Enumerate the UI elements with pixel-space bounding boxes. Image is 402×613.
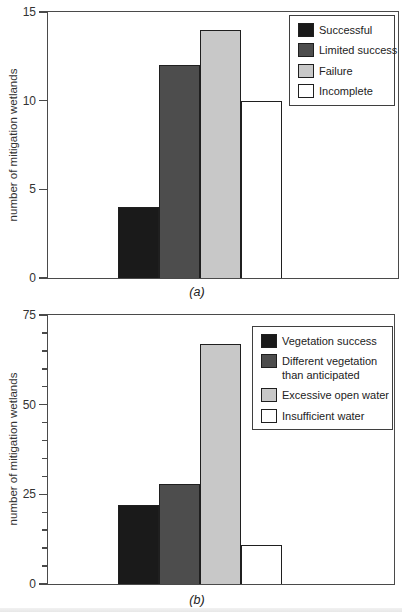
y-minor-tick: [42, 565, 47, 567]
legend-label: Vegetation success: [282, 334, 377, 348]
legend-swatch-icon: [298, 84, 314, 98]
legend-label: Different vegetation than anticipated: [282, 354, 388, 382]
cropped-caption-artifact: [0, 608, 402, 612]
y-tick-label: 0: [10, 272, 36, 284]
legend-swatch-icon: [298, 64, 314, 78]
bar-incomplete: [241, 101, 282, 278]
y-major-tick: [39, 11, 47, 13]
legend-item: Incomplete: [298, 84, 390, 98]
y-minor-tick: [42, 422, 47, 424]
y-axis-label-b: number of mitigation wetlands: [7, 373, 19, 526]
legend-label: Successful: [319, 23, 372, 37]
y-tick-label: 0: [10, 578, 36, 590]
legend-swatch-icon: [261, 409, 277, 423]
legend-item: Limited success: [298, 43, 390, 57]
legend-swatch-icon: [298, 23, 314, 37]
legend-item: Vegetation success: [261, 334, 388, 348]
legend-item: Different vegetation than anticipated: [261, 354, 388, 382]
y-major-tick: [39, 189, 47, 191]
y-minor-tick: [42, 547, 47, 549]
legend-label: Limited success: [319, 43, 397, 57]
legend-swatch-icon: [261, 354, 277, 368]
legend-swatch-icon: [261, 334, 277, 348]
y-tick-label: 75: [10, 309, 36, 321]
panel-caption-b: (b): [189, 593, 204, 607]
two-panel-bar-figure: 051015 number of mitigation wetlands Suc…: [0, 0, 402, 613]
y-major-tick: [39, 494, 47, 496]
legend-item: Failure: [298, 64, 390, 78]
y-minor-tick: [42, 332, 47, 334]
legend-item: Insufficient water: [261, 409, 388, 423]
legend-item: Successful: [298, 23, 390, 37]
y-minor-tick: [42, 350, 47, 352]
y-major-tick: [39, 277, 47, 279]
y-minor-tick: [42, 440, 47, 442]
bar-failure: [200, 30, 241, 278]
y-major-tick: [39, 314, 47, 316]
legend-label: Insufficient water: [282, 409, 364, 423]
bar-successful: [118, 207, 159, 278]
bar-excessive-open-water: [200, 344, 241, 584]
y-major-tick: [39, 404, 47, 406]
y-tick-label: 15: [10, 6, 36, 18]
legend-a: SuccessfulLimited successFailureIncomple…: [289, 15, 395, 106]
legend-item: Excessive open water: [261, 388, 388, 402]
panel-caption-a: (a): [189, 285, 204, 299]
bar-different-vegetation-than-anticipated: [159, 484, 200, 584]
y-axis-label-a: number of mitigation wetlands: [7, 69, 19, 222]
legend-swatch-icon: [261, 388, 277, 402]
legend-swatch-icon: [298, 43, 314, 57]
legend-b: Vegetation successDifferent vegetation t…: [252, 326, 393, 430]
y-major-tick: [39, 100, 47, 102]
legend-label: Failure: [319, 64, 353, 78]
y-minor-tick: [42, 368, 47, 370]
bar-insufficient-water: [241, 545, 282, 584]
y-minor-tick: [42, 476, 47, 478]
legend-label: Excessive open water: [282, 388, 389, 402]
y-major-tick: [39, 583, 47, 585]
y-minor-tick: [42, 512, 47, 514]
bar-vegetation-success: [118, 505, 159, 584]
legend-label: Incomplete: [319, 84, 373, 98]
bar-limited-success: [159, 65, 200, 278]
y-minor-tick: [42, 529, 47, 531]
y-minor-tick: [42, 386, 47, 388]
y-minor-tick: [42, 458, 47, 460]
